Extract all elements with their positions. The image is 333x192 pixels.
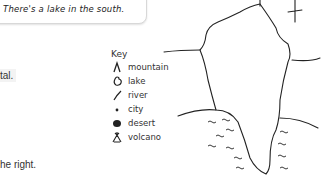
sea-waves xyxy=(208,119,288,169)
volcano-mark xyxy=(288,0,302,22)
river-southeast xyxy=(280,118,318,128)
island-map xyxy=(0,0,333,192)
river-east xyxy=(292,58,320,61)
island-outline xyxy=(200,4,290,174)
river-northwest xyxy=(164,50,200,52)
river-southwest xyxy=(178,110,216,116)
